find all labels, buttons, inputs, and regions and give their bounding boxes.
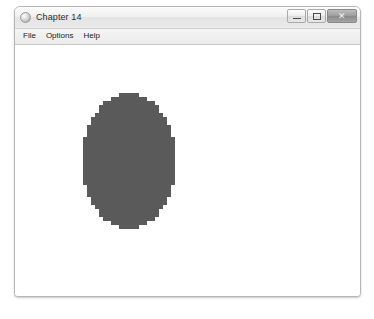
window-title: Chapter 14 [36,13,82,22]
rasterized-ellipse-shape [15,45,360,297]
drawing-canvas[interactable] [15,45,360,297]
close-icon: ✕ [328,10,356,22]
title-bar[interactable]: Chapter 14 ✕ [15,7,360,29]
menu-item-options[interactable]: Options [42,31,80,42]
window-controls: ✕ [287,9,357,23]
menu-bar: File Options Help [15,29,360,45]
maximize-icon [313,13,321,20]
menu-item-file[interactable]: File [19,31,42,42]
menu-item-help[interactable]: Help [79,31,105,42]
application-window: Chapter 14 ✕ File Options Help [14,6,361,297]
maximize-button[interactable] [307,9,326,23]
app-circle-icon [20,12,31,23]
minimize-button[interactable] [287,9,306,23]
minimize-icon [293,18,301,19]
screenshot-stage: Chapter 14 ✕ File Options Help [0,0,374,319]
close-button[interactable]: ✕ [327,9,357,23]
